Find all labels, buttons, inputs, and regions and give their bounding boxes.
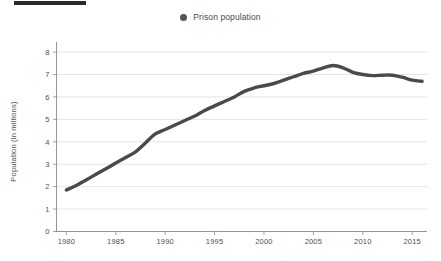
x-tick-label: 2015 — [403, 237, 421, 246]
y-tick-label: 3 — [45, 160, 49, 169]
y-tick-label: 2 — [45, 182, 49, 191]
y-tick-label: 4 — [45, 138, 49, 147]
y-tick-label: 8 — [45, 48, 49, 57]
y-tick-label: 7 — [45, 70, 49, 79]
x-tick-label: 2010 — [354, 237, 372, 246]
y-axis-ticks-group: 012345678 — [45, 48, 56, 236]
x-tick-label: 2005 — [305, 237, 323, 246]
y-axis-title: Population (in millions) — [9, 87, 18, 197]
data-series-line-prison-population — [66, 66, 422, 190]
x-tick-label: 1990 — [156, 237, 174, 246]
y-tick-label: 5 — [45, 115, 49, 124]
x-tick-label: 1985 — [107, 237, 125, 246]
x-tick-label: 1995 — [206, 237, 224, 246]
x-tick-label: 1980 — [58, 237, 76, 246]
y-tick-label: 1 — [45, 205, 49, 214]
x-axis-ticks-group: 19801985199019952000200520102015 — [58, 232, 421, 247]
chart-container: Prison population 012345678 198019851990… — [0, 0, 441, 261]
line-chart-plot: 012345678 198019851990199520002005201020… — [0, 0, 441, 261]
x-tick-label: 2000 — [255, 237, 273, 246]
y-tick-label: 0 — [45, 227, 49, 236]
y-tick-label: 6 — [45, 93, 49, 102]
